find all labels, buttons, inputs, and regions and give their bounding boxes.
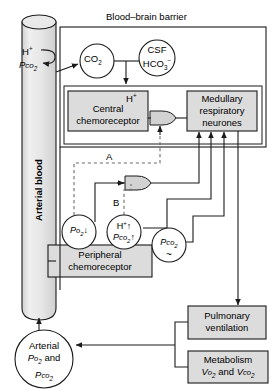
feedback-bracket (175, 322, 188, 367)
central-h-plus-marker: H+ (126, 93, 137, 104)
central-chemoreceptor-line1: Central (68, 104, 148, 114)
metabolism-line2: V˙o2 and V˙co2 (188, 367, 268, 380)
vessel-to-co2-arrow (56, 64, 78, 72)
vessel-top-ellipse (22, 15, 56, 29)
peripheral-chemoreceptor-line2: chemoreceptor (48, 262, 152, 272)
barrier-title: Blood–brain barrier (106, 12, 187, 22)
medullary-line2: respiratory (187, 106, 257, 116)
arterial-gases-line2: Po2 and (14, 353, 74, 366)
diagram-canvas: Blood–brain barrier Arterial blood H+ Pc… (0, 0, 273, 389)
hco3-label: HCO3− (140, 58, 174, 72)
arterial-gases-line1: Arterial (16, 341, 72, 351)
path-a-label: A (106, 152, 112, 162)
pco2-increase-label: Pco2↑ (106, 233, 142, 244)
pco2-tilde-label: Pco2 (154, 238, 184, 249)
metabolism-line1: Metabolism (188, 355, 268, 365)
path-b-label: B (113, 198, 119, 208)
pco2-tilde-symbol: ~ (154, 250, 184, 261)
co2-label: CO2 (84, 54, 102, 67)
central-chemoreceptor-line2: chemoreceptor (66, 116, 150, 126)
po2-decrease-label: Po2↓ (63, 226, 95, 237)
h-plus-increase-label: H+↑ (110, 220, 138, 232)
pulmonary-ventilation-line1: Pulmonary (188, 311, 266, 321)
vessel-h-plus-label: H+ (22, 46, 33, 57)
gate2-output-line (151, 152, 199, 183)
arterial-gases-line3: Pco2 (16, 370, 72, 383)
medullary-line3: neurones (187, 118, 257, 128)
medullary-line1: Medullary (187, 94, 257, 104)
gate-peripheral (125, 176, 151, 190)
hpco2-to-medullary-line (143, 152, 211, 228)
vessel-label: Arterial blood (34, 147, 44, 233)
pulmonary-ventilation-line2: ventilation (188, 323, 266, 333)
csf-label: CSF (143, 45, 171, 55)
gate-central (150, 111, 176, 125)
vessel-pco2-label: Pco2 (19, 60, 37, 73)
peripheral-chemoreceptor-line1: Peripheral (48, 250, 152, 260)
pco2tilde-to-medullary-line (186, 152, 224, 242)
